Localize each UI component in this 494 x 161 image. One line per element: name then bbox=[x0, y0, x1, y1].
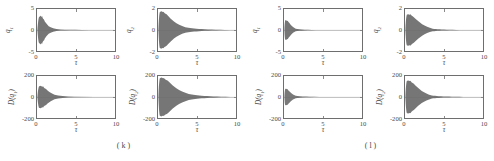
y-tick-zero: 0 bbox=[278, 27, 281, 34]
figure-group-l: q1 5 0 -5 0 5 10 τ q2 bbox=[247, 0, 494, 161]
data-curve-l-q1 bbox=[284, 9, 362, 51]
plot-frame-l-Dq2 bbox=[404, 75, 484, 119]
x-axis-title-k-Dq2: τ bbox=[196, 127, 199, 134]
x-tick-10: 10 bbox=[234, 121, 241, 128]
plot-panel-l-Dq2: D(q2) 200 0 -200 0 5 10 τ bbox=[376, 73, 486, 135]
y-tick-zero: 0 bbox=[152, 94, 155, 101]
y-tick-min: -200 bbox=[269, 116, 281, 123]
plot-panel-k-q1: q1 5 0 -5 0 5 10 τ bbox=[8, 6, 118, 68]
y-tick-min: -200 bbox=[143, 116, 155, 123]
x-tick-10: 10 bbox=[360, 54, 367, 61]
y-tick-max: 2 bbox=[152, 5, 155, 12]
plot-frame-k-Dq2 bbox=[157, 75, 237, 119]
x-tick-10: 10 bbox=[113, 121, 120, 128]
x-axis-title-l-q1: τ bbox=[322, 60, 325, 67]
plot-frame-k-Dq1 bbox=[36, 75, 116, 119]
x-tick-0: 0 bbox=[402, 121, 405, 128]
plot-frame-k-q1 bbox=[36, 8, 116, 52]
x-tick-0: 0 bbox=[155, 54, 158, 61]
y-axis-title-k-q2: q2 bbox=[126, 27, 136, 33]
data-curve-k-q2 bbox=[158, 9, 236, 51]
x-axis-title-k-q2: τ bbox=[196, 60, 199, 67]
y-tick-min: -2 bbox=[397, 49, 403, 56]
y-tick-min: -5 bbox=[29, 49, 35, 56]
data-curve-l-Dq2 bbox=[405, 76, 483, 118]
y-tick-zero: 0 bbox=[278, 94, 281, 101]
x-tick-0: 0 bbox=[281, 121, 284, 128]
y-tick-max: 200 bbox=[24, 72, 34, 79]
y-tick-max: 5 bbox=[278, 5, 281, 12]
x-axis-title-l-Dq2: τ bbox=[443, 127, 446, 134]
y-tick-min: -200 bbox=[22, 116, 34, 123]
x-tick-0: 0 bbox=[155, 121, 158, 128]
y-tick-zero: 0 bbox=[31, 27, 34, 34]
data-curve-k-Dq1 bbox=[37, 76, 115, 118]
figure-group-k: q1 5 0 -5 0 5 10 τ q2 bbox=[0, 0, 247, 161]
x-tick-0: 0 bbox=[34, 54, 37, 61]
group-caption-l: ( l ) bbox=[247, 142, 494, 150]
y-axis-title-k-Dq2: D(q2) bbox=[130, 89, 140, 105]
y-tick-max: 200 bbox=[392, 72, 402, 79]
y-axis-title-k-q1: q1 bbox=[5, 27, 15, 33]
y-tick-zero: 0 bbox=[399, 27, 402, 34]
plot-frame-l-Dq1 bbox=[283, 75, 363, 119]
plot-frame-l-q2 bbox=[404, 8, 484, 52]
y-tick-min: -5 bbox=[276, 49, 282, 56]
plot-panel-l-q1: q1 5 0 -5 0 5 10 τ bbox=[255, 6, 365, 68]
y-axis-title-l-Dq2: D(q2) bbox=[377, 89, 387, 105]
x-tick-10: 10 bbox=[234, 54, 241, 61]
x-tick-10: 10 bbox=[360, 121, 367, 128]
y-axis-title-l-q2: q2 bbox=[373, 27, 383, 33]
y-axis-title-l-q1: q1 bbox=[252, 27, 262, 33]
x-tick-10: 10 bbox=[481, 121, 488, 128]
data-curve-l-q2 bbox=[405, 9, 483, 51]
data-curve-l-Dq1 bbox=[284, 76, 362, 118]
y-tick-max: 200 bbox=[145, 72, 155, 79]
data-curve-k-Dq2 bbox=[158, 76, 236, 118]
plot-panel-l-q2: q2 2 0 -2 0 5 10 τ bbox=[376, 6, 486, 68]
y-tick-zero: 0 bbox=[152, 27, 155, 34]
y-tick-max: 2 bbox=[399, 5, 402, 12]
y-tick-min: -200 bbox=[390, 116, 402, 123]
plot-frame-k-q2 bbox=[157, 8, 237, 52]
data-curve-k-q1 bbox=[37, 9, 115, 51]
x-tick-0: 0 bbox=[34, 121, 37, 128]
figure-panel-grid: q1 5 0 -5 0 5 10 τ q2 bbox=[0, 0, 494, 161]
plot-frame-l-q1 bbox=[283, 8, 363, 52]
x-tick-10: 10 bbox=[113, 54, 120, 61]
y-axis-title-l-Dq1: D(q1) bbox=[256, 89, 266, 105]
x-tick-10: 10 bbox=[481, 54, 488, 61]
y-tick-zero: 0 bbox=[399, 94, 402, 101]
x-tick-0: 0 bbox=[402, 54, 405, 61]
x-tick-0: 0 bbox=[281, 54, 284, 61]
x-axis-title-k-q1: τ bbox=[75, 60, 78, 67]
x-axis-title-l-Dq1: τ bbox=[322, 127, 325, 134]
y-tick-max: 200 bbox=[271, 72, 281, 79]
x-axis-title-k-Dq1: τ bbox=[75, 127, 78, 134]
plot-panel-k-q2: q2 2 0 -2 0 5 10 τ bbox=[129, 6, 239, 68]
y-tick-min: -2 bbox=[150, 49, 156, 56]
plot-panel-k-Dq1: D(q1) 200 0 -200 0 5 10 τ bbox=[8, 73, 118, 135]
y-axis-title-k-Dq1: D(q1) bbox=[9, 89, 19, 105]
plot-panel-l-Dq1: D(q1) 200 0 -200 0 5 10 τ bbox=[255, 73, 365, 135]
y-tick-max: 5 bbox=[31, 5, 34, 12]
plot-panel-k-Dq2: D(q2) 200 0 -200 0 5 10 τ bbox=[129, 73, 239, 135]
group-caption-k: ( k ) bbox=[0, 142, 247, 150]
y-tick-zero: 0 bbox=[31, 94, 34, 101]
x-axis-title-l-q2: τ bbox=[443, 60, 446, 67]
